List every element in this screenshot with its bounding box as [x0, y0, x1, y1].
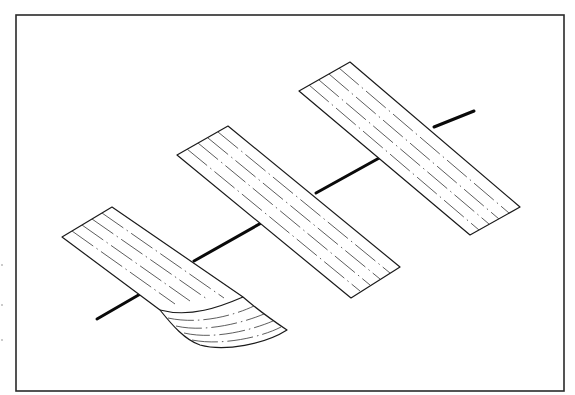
strip-outline [177, 126, 400, 298]
strip-3 [299, 62, 520, 235]
edge-artifacts [1, 264, 3, 341]
strip-2 [177, 126, 400, 298]
axis-segment [194, 222, 263, 261]
axis-segment [434, 111, 474, 127]
axis-segment [316, 157, 381, 193]
scan-dot [1, 264, 3, 266]
scan-dot [1, 304, 3, 306]
diagram-figure [0, 0, 575, 395]
axis-segment [97, 293, 142, 319]
scan-dot [1, 339, 3, 341]
